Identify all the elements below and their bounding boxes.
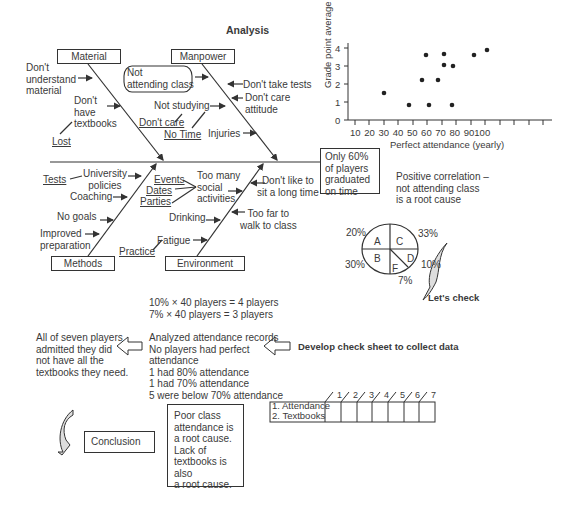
cause-improved-preparation: Improved preparation xyxy=(40,228,91,251)
scatter-y-tick-3: 3 xyxy=(335,61,340,73)
cause-injuries: Injuries xyxy=(208,128,240,140)
check-sheet-col-4: 4 xyxy=(384,390,389,402)
scatter-x-ticks: 10 20 30 40 50 60 70 80 90100 xyxy=(350,127,490,139)
correlation-note: Positive correlation – not attending cla… xyxy=(396,171,489,206)
cause-dont-care-attitude: Don't care attitude xyxy=(245,92,290,115)
develop-check-sheet-label: Develop check sheet to collect data xyxy=(298,341,459,353)
pie-slice-d: D xyxy=(407,253,414,265)
scatter-x-label: Perfect attendance (yearly) xyxy=(390,139,504,151)
scatter-y-tick-2: 2 xyxy=(335,79,340,91)
pie-slice-f: F xyxy=(392,263,398,275)
seven-players-note: All of seven players admitted they did n… xyxy=(36,332,128,378)
category-methods: Methods xyxy=(51,256,115,271)
category-manpower: Manpower xyxy=(171,49,235,64)
cause-events: Events xyxy=(154,174,185,186)
scatter-y-tick-4: 4 xyxy=(335,43,340,55)
pie-value-b: 30% xyxy=(345,259,365,271)
cause-lost: Lost xyxy=(52,136,71,148)
conclusion-text-box: Poor class attendance is a root cause. L… xyxy=(167,404,244,487)
scatter-y-tick-0: 0 xyxy=(335,115,340,127)
cause-tests: Tests xyxy=(43,174,66,186)
cause-no-time: No Time xyxy=(164,129,201,141)
pie-slice-c: C xyxy=(396,236,403,248)
check-sheet-col-6: 6 xyxy=(415,390,420,402)
cause-parties: Parties xyxy=(140,196,171,208)
check-sheet-row-2: 2. Textbooks xyxy=(272,411,325,421)
pie-value-f: 7% xyxy=(398,275,412,287)
check-sheet-col-3: 3 xyxy=(369,390,374,402)
pie-slice-b: B xyxy=(374,253,381,265)
scatter-y-label: Grade point average xyxy=(322,1,334,88)
cause-not-studying: Not studying xyxy=(154,100,210,112)
cause-dont-care: Don't care xyxy=(139,117,184,129)
pie-value-d: 10% xyxy=(421,259,441,271)
pie-value-a: 20% xyxy=(346,227,366,239)
cause-no-goals: No goals xyxy=(57,211,96,223)
check-sheet-col-5: 5 xyxy=(400,390,405,402)
cause-not-attending-class: Not attending class xyxy=(127,67,194,90)
cause-dont-take-tests: Don't take tests xyxy=(243,79,312,91)
calc-line-2: 7% × 40 players = 3 players xyxy=(149,309,273,321)
scatter-points xyxy=(382,48,490,108)
conclusion-box: Conclusion xyxy=(84,431,155,453)
cause-coaching: Coaching xyxy=(70,191,112,203)
cause-dont-have-textbooks: Don't have textbooks xyxy=(74,95,117,130)
cause-dont-understand-material: Don't understand material xyxy=(26,62,76,97)
calc-line-1: 10% × 40 players = 4 players xyxy=(149,297,279,309)
cause-too-far-to-walk: Too far to walk to class xyxy=(240,208,297,231)
lets-check-label: Let's check xyxy=(428,292,479,304)
cause-practice: Practice xyxy=(119,246,155,258)
cause-dont-like-sit: Don't like to sit a long time xyxy=(257,175,319,198)
pie-value-c: 33% xyxy=(418,228,438,240)
analyzed-records: Analyzed attendance records No players h… xyxy=(149,332,283,401)
page-title: Analysis xyxy=(226,25,269,37)
scatter-y-tick-1: 1 xyxy=(335,97,340,109)
cause-dates: Dates xyxy=(146,185,172,197)
category-environment: Environment xyxy=(165,256,245,271)
cause-university-policies: University policies xyxy=(83,168,127,191)
check-sheet-col-1: 1 xyxy=(337,390,342,402)
check-sheet-col-2: 2 xyxy=(353,390,358,402)
effect-box: Only 60% of players graduated on time xyxy=(320,148,380,194)
cause-too-many-social-activities: Too many social activities xyxy=(197,170,240,205)
check-sheet-col-7: 7 xyxy=(431,390,436,402)
cause-fatigue: Fatigue xyxy=(157,235,190,247)
cause-drinking: Drinking xyxy=(169,212,206,224)
pie-slice-a: A xyxy=(374,236,381,248)
